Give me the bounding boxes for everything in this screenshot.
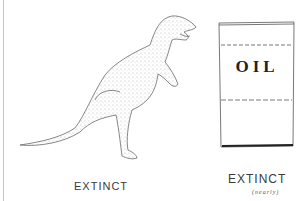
- oil-sub-caption: (nearly): [252, 189, 279, 195]
- oil-caption: EXTINCT: [228, 172, 286, 186]
- barrel-label: OIL: [232, 57, 282, 77]
- dinosaur-drawing: [20, 16, 196, 159]
- illustration: OIL EXTINCT EXTINCT (nearly): [0, 0, 306, 201]
- dinosaur-caption: EXTINCT: [74, 180, 128, 192]
- oil-barrel-drawing: [219, 22, 294, 147]
- drawing: [0, 0, 306, 201]
